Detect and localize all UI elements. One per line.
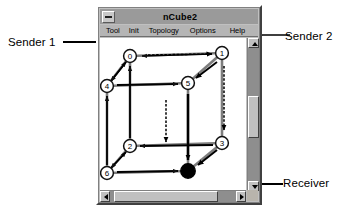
node-5-label: 5 [186, 79, 191, 88]
node-1-label: 1 [220, 49, 225, 58]
menu-item-options[interactable]: Options [187, 25, 219, 36]
menu-item-help[interactable]: Help [227, 25, 248, 36]
window-inner-frame: nCube2 Tool Init Topology Options Help [98, 7, 260, 203]
menu-bar: Tool Init Topology Options Help [100, 25, 258, 37]
system-menu-icon[interactable] [102, 11, 115, 23]
menu-item-topology[interactable]: Topology [146, 25, 182, 36]
node-0-label: 0 [128, 52, 133, 61]
vertical-scroll-thumb[interactable] [248, 96, 259, 138]
arrow-2-to-6 [111, 152, 126, 168]
node-0[interactable]: 0 [124, 50, 137, 63]
annotation-receiver: Receiver [283, 177, 329, 189]
annotation-sender-2: Sender 2 [285, 30, 332, 42]
node-3[interactable]: 3 [216, 137, 229, 150]
scroll-up-button[interactable] [248, 38, 259, 48]
node-6-label: 6 [105, 169, 110, 178]
node-5[interactable]: 5 [182, 77, 195, 90]
node-4-label: 4 [105, 82, 110, 91]
arrow-0-to-4 [111, 62, 126, 81]
vertical-scroll-track[interactable] [248, 48, 259, 181]
annotation-sender-1: Sender 1 [8, 36, 55, 48]
node-1[interactable]: 1 [216, 47, 229, 60]
scrollbar-corner [247, 190, 258, 201]
arrow-6-to-7 [117, 171, 178, 172]
menu-item-tool[interactable]: Tool [103, 25, 123, 36]
arrow-right-icon [240, 194, 244, 200]
node-3-label: 3 [220, 139, 225, 148]
vertical-scrollbar[interactable] [247, 38, 258, 191]
node-6[interactable]: 6 [101, 167, 114, 180]
node-7-receiver[interactable] [181, 164, 195, 178]
application-window: nCube2 Tool Init Topology Options Help [96, 5, 262, 205]
horizontal-scroll-thumb[interactable] [114, 191, 218, 202]
title-bar[interactable]: nCube2 [100, 9, 258, 24]
menu-item-init[interactable]: Init [126, 25, 142, 36]
node-2-label: 2 [128, 142, 133, 151]
window-title: nCube2 [115, 12, 258, 22]
leader-line-sender-1 [63, 41, 99, 43]
scroll-right-button[interactable] [236, 191, 246, 202]
screenshot-root: Sender 1 Sender 2 Receiver nCube2 Tool I… [0, 0, 345, 214]
arrow-3-to-2 [140, 145, 213, 146]
node-4[interactable]: 4 [101, 80, 114, 93]
hypercube-diagram: 0 1 2 3 [100, 38, 246, 191]
scroll-left-button[interactable] [100, 191, 110, 202]
node-2[interactable]: 2 [124, 140, 137, 153]
arrow-1-to-5 [196, 62, 217, 78]
horizontal-scroll-track[interactable] [110, 191, 236, 202]
arrow-down-icon [252, 185, 258, 189]
arrow-3-to-7 [198, 150, 217, 165]
horizontal-scrollbar[interactable] [100, 190, 246, 201]
arrow-left-icon [104, 194, 108, 200]
diagram-canvas[interactable]: 0 1 2 3 [100, 38, 246, 191]
arrow-up-icon [252, 42, 258, 46]
arrow-4-to-5 [117, 84, 178, 85]
